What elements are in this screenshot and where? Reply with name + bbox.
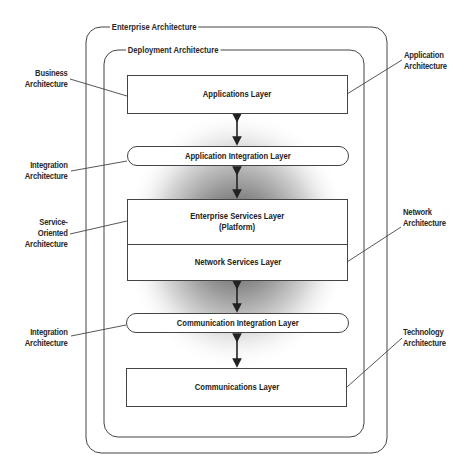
- communication-integration-layer: Communication Integration Layer: [126, 313, 349, 333]
- deployment-architecture-title: Deployment Architecture: [126, 45, 220, 55]
- application-integration-layer-label: Application Integration Layer: [185, 151, 291, 162]
- communications-layer-label: Communications Layer: [194, 382, 279, 393]
- enterprise-services-layer-sublabel: (Platform): [219, 222, 255, 233]
- network-architecture-label: NetworkArchitecture: [403, 207, 446, 229]
- enterprise-services-layer-label: Enterprise Services Layer: [191, 211, 285, 222]
- technology-architecture-label: TechnologyArchitecture: [403, 327, 446, 349]
- network-services-layer-label: Network Services Layer: [194, 257, 280, 268]
- service-oriented-architecture-label: Service-OrientedArchitecture: [25, 217, 68, 250]
- communication-integration-layer-label: Communication Integration Layer: [176, 318, 298, 329]
- application-architecture-label: ApplicationArchitecture: [404, 50, 447, 72]
- communications-layer: Communications Layer: [126, 368, 347, 407]
- network-services-layer: Network Services Layer: [127, 244, 348, 281]
- enterprise-architecture-title: Enterprise Architecture: [110, 22, 198, 32]
- application-integration-layer: Application Integration Layer: [127, 146, 349, 166]
- applications-layer-label: Applications Layer: [203, 89, 271, 100]
- business-architecture-label: BusinessArchitecture: [25, 68, 68, 90]
- integration-architecture-label-top: IntegrationArchitecture: [25, 160, 68, 182]
- applications-layer: Applications Layer: [127, 75, 348, 114]
- integration-architecture-label-bottom: IntegrationArchitecture: [25, 327, 68, 349]
- enterprise-services-layer: Enterprise Services Layer (Platform): [127, 199, 348, 245]
